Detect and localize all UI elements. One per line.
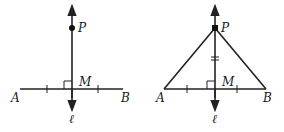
label-line-l: ℓ — [212, 112, 217, 126]
label-M: M — [78, 75, 92, 89]
label-A: A — [155, 91, 165, 105]
point-P-dot — [212, 25, 218, 31]
label-P: P — [77, 21, 87, 35]
label-B: B — [262, 91, 272, 105]
figure-isosceles-triangle: P M A B ℓ — [155, 10, 272, 126]
right-angle-icon — [207, 81, 215, 89]
label-P: P — [220, 21, 230, 35]
geometry-diagram: P M A B ℓ P M A B ℓ — [0, 0, 284, 132]
label-M: M — [221, 75, 235, 89]
point-P-dot — [69, 25, 75, 31]
label-line-l: ℓ — [69, 112, 74, 126]
right-angle-icon — [64, 81, 72, 89]
figure-perpendicular-bisector: P M A B ℓ — [10, 10, 130, 126]
segment-PA — [164, 28, 215, 89]
label-A: A — [10, 91, 20, 105]
label-B: B — [120, 91, 130, 105]
